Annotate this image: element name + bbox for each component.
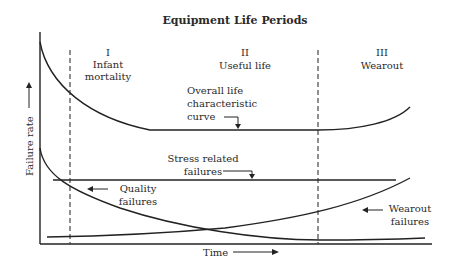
svg-text:mortality: mortality — [85, 71, 132, 82]
overall-arrow-icon — [235, 124, 241, 129]
wearout-annotation: Wearout failures — [362, 203, 431, 227]
quality-annotation: Quality failures — [87, 183, 157, 207]
x-axis-label: Time — [203, 247, 228, 258]
stress-arrow-line — [223, 171, 252, 176]
svg-text:Quality: Quality — [120, 183, 157, 194]
period-III-label: III Wearout — [361, 47, 404, 71]
y-arrow-icon — [26, 82, 32, 88]
svg-text:I: I — [106, 47, 110, 58]
svg-text:Overall life: Overall life — [187, 85, 243, 96]
svg-text:III: III — [376, 47, 388, 58]
svg-text:failures: failures — [184, 166, 222, 177]
svg-text:characteristic: characteristic — [187, 98, 258, 109]
x-axis-label-group: Time — [203, 247, 279, 258]
svg-text:II: II — [241, 47, 249, 58]
period-II-label: II Useful life — [219, 47, 271, 71]
svg-text:failures: failures — [119, 196, 157, 207]
y-axis-label-group: Failure rate — [24, 82, 35, 176]
period-I-label: I Infant mortality — [85, 47, 132, 82]
bathtub-diagram: Equipment Life Periods Failure rate Time… — [0, 0, 453, 272]
quality-arrow-icon — [87, 186, 93, 192]
svg-text:Stress related: Stress related — [167, 153, 239, 164]
chart-title: Equipment Life Periods — [162, 14, 307, 27]
wearout-failures-curve — [47, 178, 410, 237]
svg-text:Infant: Infant — [93, 59, 124, 70]
svg-text:curve: curve — [187, 111, 215, 122]
svg-text:failures: failures — [391, 216, 429, 227]
wearout-arrow-icon — [362, 207, 368, 213]
y-axis-label: Failure rate — [24, 116, 35, 176]
x-arrow-icon — [272, 249, 279, 255]
svg-text:Useful life: Useful life — [219, 60, 271, 71]
overall-curve-annotation: Overall life characteristic curve — [187, 85, 258, 129]
stress-arrow-icon — [249, 174, 255, 179]
stress-annotation: Stress related failures — [167, 153, 255, 179]
svg-text:Wearout: Wearout — [361, 60, 404, 71]
svg-text:Wearout: Wearout — [389, 203, 432, 214]
